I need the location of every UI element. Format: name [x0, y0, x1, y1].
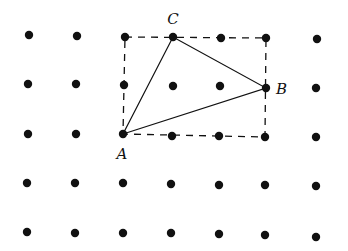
- lattice-dot: [312, 133, 320, 141]
- lattice-dot: [119, 179, 127, 187]
- lattice-dot: [262, 84, 270, 92]
- lattice-dot: [261, 231, 269, 239]
- lattice-dot: [121, 33, 129, 41]
- lattice-dot: [119, 130, 127, 138]
- lattice-dot: [72, 80, 80, 88]
- lattice-dot: [216, 82, 224, 90]
- lattice-dot: [261, 133, 269, 141]
- lattice-dot: [215, 230, 223, 238]
- lattice-dot: [312, 84, 320, 92]
- lattice-dots: [23, 31, 321, 241]
- lattice-dot: [261, 181, 269, 189]
- lattice-dot: [119, 229, 127, 237]
- lattice-dot: [215, 132, 223, 140]
- dashed-bounding-rectangle: [123, 37, 266, 137]
- triangle-outline: [123, 37, 266, 134]
- lattice-dot: [72, 130, 80, 138]
- lattice-dot: [312, 182, 320, 190]
- lattice-dot: [120, 81, 128, 89]
- lattice-diagram: C B A: [0, 0, 348, 251]
- lattice-dot: [25, 31, 33, 39]
- lattice-dot: [73, 32, 81, 40]
- lattice-dot: [168, 132, 176, 140]
- lattice-dot: [71, 229, 79, 237]
- label-c: C: [167, 10, 179, 28]
- lattice-dot: [167, 229, 175, 237]
- lattice-dot: [167, 180, 175, 188]
- lattice-dot: [23, 179, 31, 187]
- lattice-dot: [169, 82, 177, 90]
- lattice-dot: [215, 181, 223, 189]
- dashed-rectangle-outline: [123, 37, 266, 137]
- lattice-dot: [23, 228, 31, 236]
- lattice-dot: [24, 80, 32, 88]
- label-a: A: [115, 145, 128, 163]
- lattice-dot: [262, 34, 270, 42]
- vertex-labels: C B A: [115, 10, 287, 163]
- lattice-dot: [71, 179, 79, 187]
- label-b: B: [275, 80, 287, 98]
- lattice-dot: [313, 35, 321, 43]
- triangle-abc: [123, 37, 266, 134]
- lattice-dot: [217, 34, 225, 42]
- lattice-dot: [24, 130, 32, 138]
- lattice-dot: [169, 33, 177, 41]
- lattice-dot: [312, 233, 320, 241]
